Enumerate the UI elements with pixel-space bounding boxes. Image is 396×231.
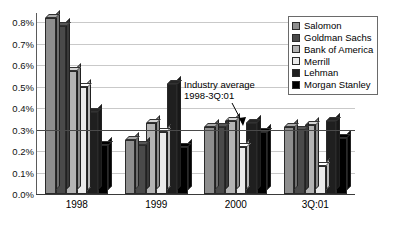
legend-swatch	[292, 45, 300, 53]
y-axis-tick-label: 0.7%	[12, 38, 34, 49]
x-axis-tick-label: 3Q:01	[302, 199, 329, 210]
legend-item: Lehman	[292, 67, 373, 79]
bar-side	[77, 63, 81, 190]
bar-side	[87, 79, 91, 191]
annotation-line-2: 1998-3Q:01	[184, 90, 255, 101]
legend-swatch	[292, 34, 300, 42]
x-axis-line	[36, 194, 355, 195]
annotation-industry-average: Industry average 1998-3Q:01	[184, 79, 255, 101]
bar-side	[257, 115, 261, 190]
y-axis-tick-label: 0.6%	[12, 60, 34, 71]
x-axis-tick-label: 1998	[66, 199, 88, 210]
y-axis-tick-label: 0.1%	[12, 167, 34, 178]
bar-side	[336, 113, 340, 190]
industry-average-line	[37, 130, 355, 131]
bar	[204, 127, 215, 194]
bar-side	[167, 124, 171, 190]
bar-group	[117, 22, 197, 194]
y-axis-tick-label: 0.2%	[12, 146, 34, 157]
legend-item: Merrill	[292, 55, 373, 67]
legend-label: Merrill	[304, 57, 330, 67]
bar-side	[236, 113, 240, 190]
bar-face	[45, 18, 56, 194]
bar-side	[135, 132, 139, 190]
bar-side	[188, 139, 192, 190]
bar-face	[125, 140, 136, 194]
legend-label: Morgan Stanley	[304, 80, 371, 90]
bar-side	[177, 76, 181, 190]
y-axis-tick-label: 0.3%	[12, 124, 34, 135]
y-axis-tick-labels: 0.8%0.7%0.6%0.5%0.4%0.3%0.2%0.1%0.0%	[0, 0, 34, 231]
annotation-line-1: Industry average	[184, 79, 255, 90]
legend-label: Salomon	[304, 21, 342, 31]
bar-chart: 0.8%0.7%0.6%0.5%0.4%0.3%0.2%0.1%0.0% 199…	[0, 0, 396, 231]
legend-label: Goldman Sachs	[304, 33, 372, 43]
y-axis-tick-label: 0.0%	[12, 189, 34, 200]
bar-side	[98, 104, 102, 190]
bar-side	[267, 124, 271, 190]
legend-swatch	[292, 81, 300, 89]
legend-swatch	[292, 57, 300, 65]
legend-label: Bank of America	[304, 45, 373, 55]
bar-side	[156, 115, 160, 190]
legend-item: Goldman Sachs	[292, 32, 373, 44]
bar	[45, 18, 56, 194]
legend-item: Bank of America	[292, 44, 373, 56]
bar-side	[315, 117, 319, 190]
legend-swatch	[292, 22, 300, 30]
x-axis-tick-label: 2000	[225, 199, 247, 210]
y-axis-tick-label: 0.8%	[12, 17, 34, 28]
bar-side	[305, 122, 309, 191]
bar-group	[37, 22, 117, 194]
y-axis-tick-label: 0.5%	[12, 81, 34, 92]
bar-group	[196, 22, 276, 194]
bar	[284, 127, 295, 194]
y-axis-tick-label: 0.4%	[12, 103, 34, 114]
x-axis-tick-label: 1999	[145, 199, 167, 210]
bar-side	[146, 137, 150, 190]
bar-side	[347, 130, 351, 190]
bar-face	[284, 127, 295, 194]
bar-face	[204, 127, 215, 194]
legend-item: Morgan Stanley	[292, 79, 373, 91]
legend-label: Lehman	[304, 68, 338, 78]
legend-item: Salomon	[292, 20, 373, 32]
legend: SalomonGoldman SachsBank of AmericaMerri…	[288, 16, 378, 95]
bar-side	[66, 18, 70, 190]
legend-swatch	[292, 69, 300, 77]
bar-side	[56, 10, 60, 190]
bar	[125, 140, 136, 194]
